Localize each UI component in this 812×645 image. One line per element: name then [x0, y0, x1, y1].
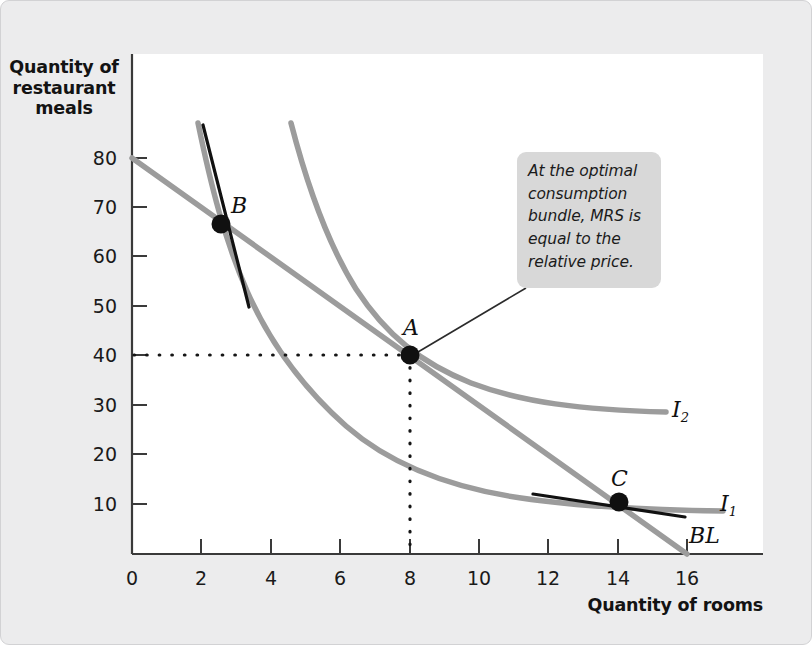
point-label-c: C [611, 466, 628, 491]
x-tick-label-0: 0 [112, 567, 152, 589]
x-tick-label-10: 10 [459, 567, 499, 589]
y-axis-title: Quantity of restaurant meals [3, 57, 125, 119]
data-point-a [401, 346, 420, 365]
x-tick-label-4: 4 [251, 567, 291, 589]
x-tick-label-16: 16 [667, 567, 707, 589]
y-tick-label-10: 10 [71, 493, 117, 515]
annotation-callout: At the optimal consumption bundle, MRS i… [517, 152, 661, 288]
curve-label-i2-text: I [672, 397, 681, 422]
point-label-b: B [231, 193, 247, 218]
curve-label-i1: I1 [720, 491, 737, 519]
data-point-b [212, 215, 231, 234]
annotation-callout-text: At the optimal consumption bundle, MRS i… [528, 160, 652, 273]
curve-label-i1-subscript: 1 [729, 504, 737, 519]
x-tick-label-14: 14 [598, 567, 638, 589]
curve-label-i1-text: I [720, 491, 729, 516]
x-axis-title: Quantity of rooms [501, 595, 763, 616]
y-tick-label-80: 80 [71, 147, 117, 169]
x-tick-label-12: 12 [528, 567, 568, 589]
x-tick-label-2: 2 [181, 567, 221, 589]
y-tick-label-70: 70 [71, 196, 117, 218]
y-tick-label-20: 20 [71, 443, 117, 465]
curve-label-bl: BL [689, 523, 720, 548]
figure-panel: Quantity of restaurant meals Quantity of… [0, 0, 812, 645]
curve-label-i2: I2 [672, 397, 689, 425]
x-tick-label-8: 8 [390, 567, 430, 589]
y-tick-label-60: 60 [71, 245, 117, 267]
y-tick-label-40: 40 [71, 344, 117, 366]
curve-label-i2-subscript: 2 [681, 410, 689, 425]
y-tick-label-30: 30 [71, 394, 117, 416]
x-tick-label-6: 6 [320, 567, 360, 589]
y-tick-label-50: 50 [71, 295, 117, 317]
point-label-a: A [403, 315, 419, 340]
data-point-c [610, 493, 629, 512]
